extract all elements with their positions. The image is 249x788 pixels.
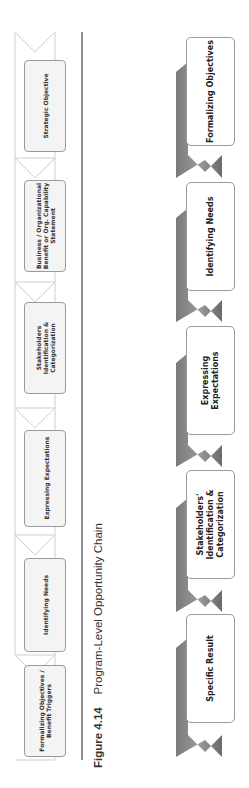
figure-title: Program-Level Opportunity Chain xyxy=(92,523,104,694)
label: Expressing Expectations xyxy=(187,327,234,434)
label: Formalizing Objectives xyxy=(187,38,234,145)
left-box-expressing-expectations: Expressing Expectations xyxy=(24,430,66,527)
label: Identifying Needs xyxy=(25,559,65,651)
figure-number: Figure 4.14 xyxy=(92,707,104,768)
label: Stakeholders' Identification & Categoriz… xyxy=(187,471,234,578)
right-box-expressing-expectations: Expressing Expectations xyxy=(186,326,235,435)
left-box-formalizing-objectives: Formalizing Objectives / Benefit Trigger… xyxy=(24,665,66,757)
left-box-identifying-needs: Identifying Needs xyxy=(24,558,66,652)
label: Business / Organizational Benefit or Org… xyxy=(25,181,65,271)
label: Formalizing Objectives / Benefit Trigger… xyxy=(25,666,65,756)
left-box-business-benefit: Business / Organizational Benefit or Org… xyxy=(24,180,66,272)
right-box-stakeholders: Stakeholders' Identification & Categoriz… xyxy=(186,470,235,579)
left-box-strategic-objective: Strategic Objective xyxy=(24,60,66,152)
label: Strategic Objective xyxy=(25,61,65,151)
figure-caption: Figure 4.14 Program-Level Opportunity Ch… xyxy=(92,523,104,768)
label: Specific Result xyxy=(187,615,234,722)
right-box-specific-result: Specific Result xyxy=(186,614,235,723)
right-box-identifying-needs: Identifying Needs xyxy=(186,182,235,291)
label: Expressing Expectations xyxy=(26,431,66,526)
left-box-stakeholders: Stakeholders Identification & Categoriza… xyxy=(24,302,66,394)
label: Stakeholders Identification & Categoriza… xyxy=(25,303,65,393)
label: Identifying Needs xyxy=(187,183,234,290)
right-box-formalizing-objectives: Formalizing Objectives xyxy=(186,37,235,146)
